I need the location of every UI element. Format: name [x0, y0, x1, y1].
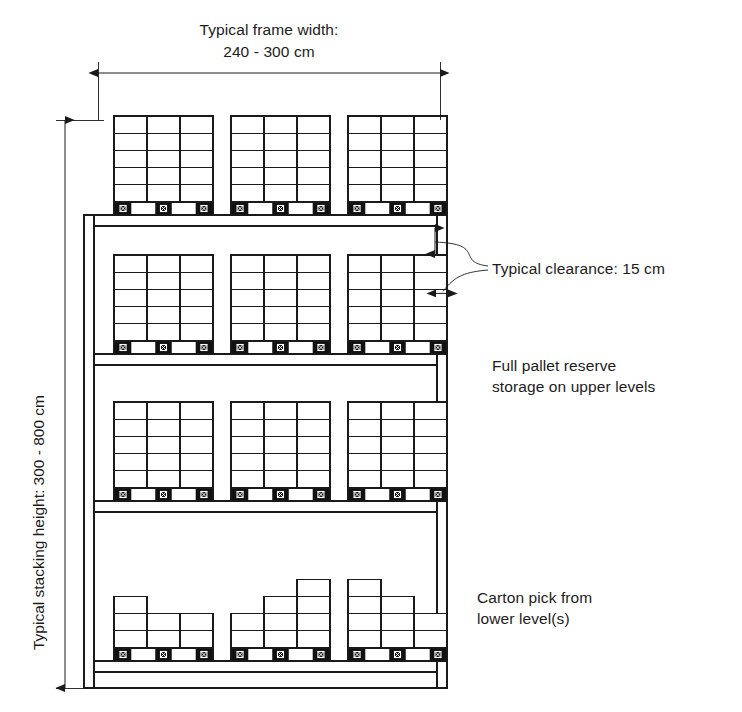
pallet-foot-1	[232, 342, 249, 353]
pallet-foot-2	[389, 342, 406, 353]
carton	[114, 631, 147, 648]
carton	[381, 324, 414, 341]
carton	[381, 255, 414, 272]
carton	[147, 324, 180, 341]
carton	[231, 614, 264, 631]
pallet-foot-1	[115, 649, 132, 660]
pallet-foot-3	[313, 649, 330, 660]
carton	[297, 150, 330, 167]
stacking-height-text: Typical stacking height: 300 - 800 cm	[30, 395, 48, 650]
pallet-foot-3	[430, 342, 447, 353]
carton	[264, 471, 297, 488]
carton	[231, 419, 264, 436]
carton	[297, 133, 330, 150]
carton	[297, 471, 330, 488]
carton	[231, 307, 264, 324]
carton-stack	[114, 596, 213, 648]
carton	[114, 419, 147, 436]
carton	[414, 272, 447, 289]
carton	[414, 471, 447, 488]
carton	[381, 168, 414, 185]
frame-width-dimension	[98, 62, 440, 120]
carton	[264, 133, 297, 150]
carton	[348, 272, 381, 289]
carton	[348, 185, 381, 202]
carton	[264, 614, 297, 631]
carton-stack	[348, 255, 447, 341]
carton	[114, 614, 147, 631]
pallet-foot-3	[313, 489, 330, 500]
carton	[264, 436, 297, 453]
carton	[180, 168, 213, 185]
carton	[297, 116, 330, 133]
beam-body	[94, 661, 437, 672]
rack-level-reserve-upper	[114, 255, 447, 354]
carton	[381, 614, 414, 631]
carton	[114, 454, 147, 471]
pallet-load-reserve-middle-3	[348, 402, 447, 501]
carton	[264, 185, 297, 202]
rack-level-top-of-rack	[114, 116, 447, 215]
pallet-foot-2	[389, 649, 406, 660]
carton-stack	[348, 402, 447, 488]
carton	[180, 307, 213, 324]
diagram-canvas	[0, 0, 742, 712]
carton	[348, 289, 381, 306]
carton	[264, 272, 297, 289]
carton	[180, 324, 213, 341]
carton	[147, 116, 180, 133]
beam-body	[94, 501, 437, 512]
carton	[147, 631, 180, 648]
carton	[114, 402, 147, 419]
carton	[231, 324, 264, 341]
carton	[231, 454, 264, 471]
carton	[381, 185, 414, 202]
carton	[114, 596, 147, 613]
carton	[264, 289, 297, 306]
carton	[114, 255, 147, 272]
carton	[114, 289, 147, 306]
pallet-load-carton-pick-2	[231, 579, 330, 661]
carton	[381, 436, 414, 453]
carton	[297, 579, 330, 596]
carton	[231, 289, 264, 306]
carton-stack	[114, 116, 213, 202]
rack-beam-1	[94, 354, 437, 365]
carton	[381, 133, 414, 150]
rack-beam-2	[94, 501, 437, 512]
carton	[114, 307, 147, 324]
carton	[114, 272, 147, 289]
carton	[264, 168, 297, 185]
carton-stack	[114, 402, 213, 488]
pallet-foot-1	[349, 203, 366, 214]
pallet-load-reserve-upper-3	[348, 255, 447, 354]
carton	[381, 454, 414, 471]
pallet-foot-3	[196, 489, 213, 500]
carton-stack	[114, 255, 213, 341]
carton-stack	[231, 579, 330, 648]
carton	[264, 596, 297, 613]
carton	[348, 168, 381, 185]
pallet-foot-3	[430, 649, 447, 660]
rack-level-carton-pick	[114, 579, 447, 661]
pallet-foot-3	[196, 203, 213, 214]
carton	[114, 324, 147, 341]
carton	[264, 324, 297, 341]
carton	[414, 185, 447, 202]
carton	[348, 454, 381, 471]
pallet-load-carton-pick-1	[114, 596, 213, 661]
carton	[231, 436, 264, 453]
carton	[180, 454, 213, 471]
carton-stack	[231, 116, 330, 202]
frame-width-label-line1: Typical frame width:	[98, 20, 440, 39]
pallet-foot-3	[430, 203, 447, 214]
carton	[147, 133, 180, 150]
carton	[348, 614, 381, 631]
carton	[114, 133, 147, 150]
carton	[180, 419, 213, 436]
carton	[348, 307, 381, 324]
carton	[381, 272, 414, 289]
carton	[147, 255, 180, 272]
carton	[180, 272, 213, 289]
carton	[381, 307, 414, 324]
